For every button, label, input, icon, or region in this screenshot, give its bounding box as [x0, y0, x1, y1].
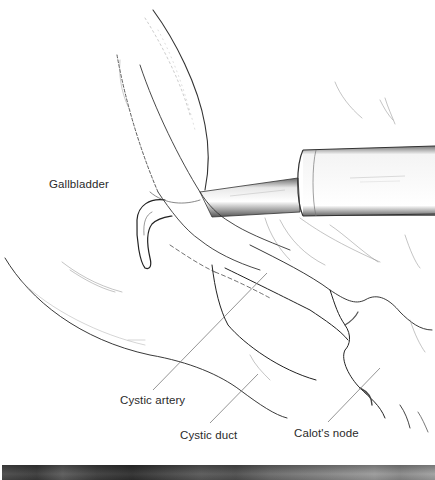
leader-lines: [0, 0, 435, 465]
label-calots-node: Calot's node: [294, 427, 359, 439]
leader-line-calots-node: [328, 368, 380, 422]
label-cystic-duct: Cystic duct: [180, 429, 237, 441]
surgical-illustration: Gallbladder Cystic artery Cystic duct Ca…: [0, 0, 435, 480]
leader-line-cystic-duct: [210, 374, 258, 423]
leader-line-cystic-artery: [153, 273, 267, 390]
label-gallbladder: Gallbladder: [49, 178, 109, 190]
photo-strip: [2, 465, 435, 480]
label-cystic-artery: Cystic artery: [120, 394, 185, 406]
